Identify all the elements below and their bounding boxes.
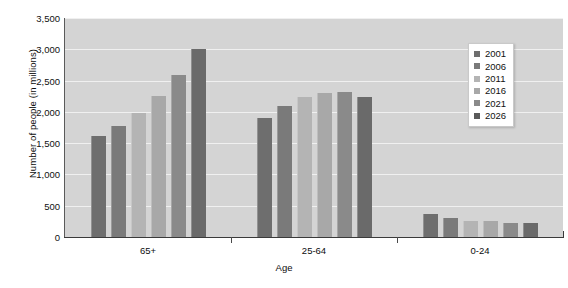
legend-item-label: 2001 <box>485 49 506 59</box>
y-axis-tick-label: 1,500 <box>18 138 60 149</box>
y-axis-tick-label: 2,500 <box>18 75 60 86</box>
y-axis-tick-label: 500 <box>18 200 60 211</box>
legend-item-label: 2021 <box>485 99 506 109</box>
bar-2001-25-64 <box>257 118 272 237</box>
bar-2021-65- <box>171 75 186 237</box>
x-axis-title: Age <box>0 262 568 273</box>
legend-swatch-icon <box>474 100 480 106</box>
y-axis-line <box>64 18 65 238</box>
legend-swatch-icon <box>474 113 480 119</box>
bar-group-25-64 <box>231 18 397 237</box>
y-axis-tick-label: 2,000 <box>18 106 60 117</box>
y-axis-tick-label: 0 <box>18 232 60 243</box>
legend-swatch-icon <box>474 76 480 82</box>
bar-2021-0-24 <box>503 223 518 237</box>
y-axis-tick-labels: 05001,0001,5002,0002,5003,0003,500 <box>18 12 60 238</box>
legend-swatch-icon <box>474 63 480 69</box>
legend-item-2026[interactable]: 2026 <box>474 109 506 121</box>
legend-item-2011[interactable]: 2011 <box>474 73 506 85</box>
bar-2011-65- <box>131 113 146 237</box>
bar-2016-25-64 <box>317 93 332 237</box>
y-axis-tick-label: 1,000 <box>18 169 60 180</box>
bar-2011-0-24 <box>463 221 478 237</box>
bar-2026-65- <box>191 49 206 237</box>
x-axis-tick <box>397 237 398 243</box>
bar-2016-0-24 <box>483 221 498 237</box>
bar-2006-25-64 <box>277 106 292 237</box>
bar-2016-65- <box>151 96 166 237</box>
x-axis-line <box>64 237 564 238</box>
bar-2026-0-24 <box>523 223 538 237</box>
bar-2011-25-64 <box>297 97 312 237</box>
legend: 200120062011201620212026 <box>468 43 514 127</box>
legend-item-2006[interactable]: 2006 <box>474 60 506 72</box>
bar-chart: Number of people (in millions) 05001,000… <box>0 0 568 288</box>
bar-2001-65- <box>91 136 106 237</box>
bar-2026-25-64 <box>357 97 372 237</box>
legend-item-2016[interactable]: 2016 <box>474 85 506 97</box>
bar-group-65- <box>65 18 231 237</box>
legend-item-label: 2006 <box>485 62 506 72</box>
bar-2006-0-24 <box>443 218 458 237</box>
x-axis-end-cap <box>563 231 564 238</box>
y-axis-tick-label: 3,500 <box>18 13 60 24</box>
x-axis-tick <box>231 237 232 243</box>
x-axis-label-65-: 65+ <box>140 245 156 256</box>
legend-item-label: 2016 <box>485 86 506 96</box>
legend-item-2021[interactable]: 2021 <box>474 97 506 109</box>
legend-swatch-icon <box>474 51 480 57</box>
x-axis-label-0-24: 0-24 <box>470 245 489 256</box>
legend-item-2001[interactable]: 2001 <box>474 48 506 60</box>
bar-2021-25-64 <box>337 92 352 237</box>
y-axis-tick-label: 3,000 <box>18 44 60 55</box>
bar-2001-0-24 <box>423 214 438 237</box>
legend-swatch-icon <box>474 88 480 94</box>
legend-item-label: 2026 <box>485 111 506 121</box>
legend-item-label: 2011 <box>485 74 505 84</box>
x-axis-label-25-64: 25-64 <box>302 245 326 256</box>
bar-2006-65- <box>111 126 126 237</box>
